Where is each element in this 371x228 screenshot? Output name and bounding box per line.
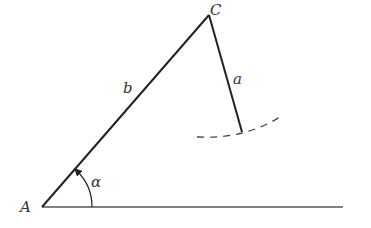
label-side-a: a: [233, 70, 242, 88]
label-vertex-a: A: [18, 198, 31, 216]
label-vertex-c: C: [210, 1, 222, 19]
triangle-diagram: A C b a α: [0, 0, 371, 228]
label-side-b: b: [123, 79, 133, 97]
side-b: [42, 15, 209, 207]
angle-alpha-arc: [77, 171, 92, 207]
label-angle-alpha: α: [91, 173, 101, 191]
